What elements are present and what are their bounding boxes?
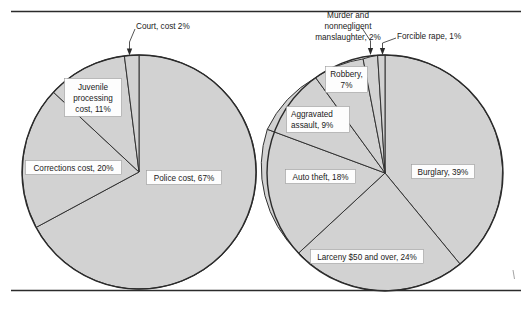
label-burglary: Burglary, 39% [418, 168, 469, 177]
callout-aggravated-assault: Aggravated assault, 9% [287, 107, 350, 133]
figure-canvas: Court, cost 2% Juvenile processing cost,… [0, 0, 531, 312]
leader-arrowhead-court-cost [127, 49, 132, 56]
label-juvenile-processing-line2: processing [73, 94, 113, 103]
callout-robbery: Robbery, 7% [326, 67, 368, 93]
corner-tick-mark [513, 270, 515, 279]
label-robbery-line2: 7% [341, 81, 353, 90]
pie-charts-figure: Court, cost 2% Juvenile processing cost,… [0, 0, 531, 312]
label-aggravated-line2: assault, 9% [291, 121, 333, 130]
label-police-cost: Police cost, 67% [154, 174, 215, 183]
callout-burglary: Burglary, 39% [412, 165, 475, 179]
callout-police-cost: Police cost, 67% [147, 171, 222, 185]
label-juvenile-processing-line1: Juvenile [78, 83, 108, 92]
label-aggravated-line1: Aggravated [291, 110, 333, 119]
leader-line-court-cost [130, 29, 136, 51]
callout-larceny: Larceny $50 and over, 24% [311, 250, 424, 264]
callout-court-cost: Court, cost 2% [127, 22, 190, 56]
label-murder-line3: manslaughter, 2% [315, 33, 381, 42]
leader-arrowhead-forcible-rape [380, 48, 385, 55]
label-murder-line1: Murder and [327, 11, 369, 20]
callout-forcible-rape: Forcible rape, 1% [380, 32, 461, 55]
label-court-cost: Court, cost 2% [136, 22, 190, 31]
label-murder-line2: nonnegligent [325, 22, 373, 31]
leader-arrowhead-murder-manslaughter [368, 48, 373, 55]
label-robbery-line1: Robbery, [330, 70, 363, 79]
label-corrections-cost: Corrections cost, 20% [33, 164, 113, 173]
label-forcible-rape: Forcible rape, 1% [397, 32, 461, 41]
label-juvenile-processing-line3: cost, 11% [75, 105, 110, 114]
callout-murder-manslaughter: Murder and nonnegligent manslaughter, 2% [315, 11, 381, 55]
callout-auto-theft: Auto theft, 18% [286, 170, 356, 184]
label-auto-theft: Auto theft, 18% [293, 173, 349, 182]
callout-juvenile-processing-cost: Juvenile processing cost, 11% [65, 79, 122, 117]
label-larceny: Larceny $50 and over, 24% [317, 253, 417, 262]
callout-corrections-cost: Corrections cost, 20% [26, 161, 122, 175]
